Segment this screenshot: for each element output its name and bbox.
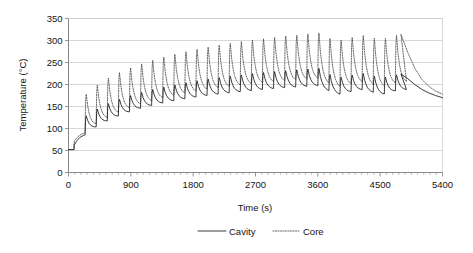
- y-tick-label: 0: [57, 167, 62, 178]
- y-tick-label: 100: [47, 123, 63, 134]
- y-tick-label: 150: [47, 101, 63, 112]
- x-tick-label: 3600: [307, 179, 328, 190]
- x-tick-label: 2700: [245, 179, 266, 190]
- chart-figure: 050100150200250300350 090018002700360045…: [0, 0, 473, 253]
- legend-label-core: Core: [303, 226, 324, 237]
- y-tick-label: 300: [47, 35, 63, 46]
- y-axis-title: Temperature (°C): [17, 59, 28, 132]
- temperature-time-chart: 050100150200250300350 090018002700360045…: [0, 0, 473, 253]
- x-tick-label: 4500: [370, 179, 391, 190]
- y-tick-label: 200: [47, 79, 63, 90]
- x-tick-label: 5400: [432, 179, 453, 190]
- x-tick-label: 1800: [183, 179, 204, 190]
- y-tick-label: 350: [47, 13, 63, 24]
- y-tick-label: 50: [52, 145, 63, 156]
- y-tick-label: 250: [47, 57, 63, 68]
- x-tick-label: 900: [123, 179, 139, 190]
- x-tick-label: 0: [66, 179, 71, 190]
- legend-label-cavity: Cavity: [229, 226, 256, 237]
- x-axis-title: Time (s): [238, 202, 272, 213]
